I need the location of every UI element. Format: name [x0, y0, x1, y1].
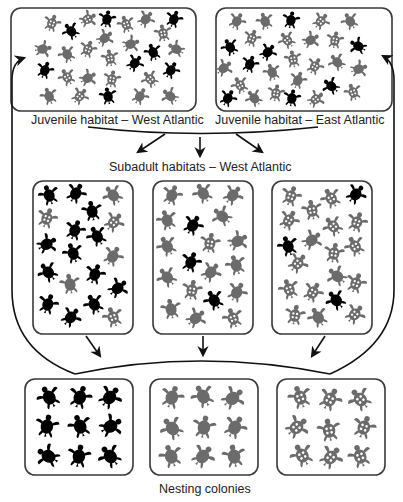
arrow-to-nesting-left	[86, 336, 100, 356]
arrow-to-nesting-right	[312, 336, 325, 356]
box-juvenile-east	[216, 8, 392, 111]
turtles-nesting-gray	[155, 380, 251, 472]
arrow-to-subadult-right	[236, 134, 262, 152]
turtles-juvenile-west	[33, 7, 187, 109]
turtles-subadult-3	[275, 180, 371, 331]
turtles-juvenile-east	[212, 9, 370, 112]
label-nesting: Nesting colonies	[159, 482, 251, 496]
arrow-to-subadult-left	[138, 134, 165, 152]
turtles-nesting-black	[32, 380, 127, 472]
label-juvenile-east: Juvenile habitat – East Atlantic	[215, 113, 385, 127]
turtles-subadult-1	[33, 179, 132, 331]
label-subadult: Subadult habitats – West Atlantic	[109, 160, 292, 174]
turtle-migration-diagram	[0, 0, 403, 502]
turtles-subadult-2	[152, 179, 252, 332]
label-juvenile-west: Juvenile habitat – West Atlantic	[31, 113, 204, 127]
turtles-nesting-patterned	[281, 382, 379, 473]
